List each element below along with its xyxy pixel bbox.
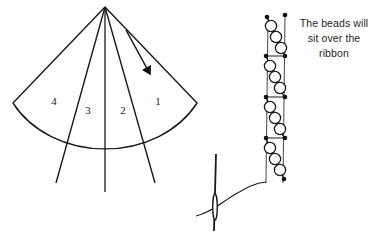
beaded-ribbon-group: [264, 13, 288, 183]
segment-label-3: 3: [85, 104, 91, 116]
bead: [270, 31, 281, 42]
cone-fan-group: 4 3 2 1: [13, 7, 197, 192]
knot-dot: [264, 95, 269, 100]
note-line-3: ribbon: [286, 46, 382, 61]
bead: [265, 20, 276, 31]
bead: [264, 142, 275, 153]
beads-over-ribbon-note: The beads will sit over the ribbon: [286, 16, 382, 61]
bead: [275, 42, 286, 53]
segment-label-2: 2: [120, 104, 126, 116]
bead: [264, 101, 275, 112]
bead: [269, 71, 280, 82]
bead: [274, 123, 285, 134]
bead: [269, 112, 280, 123]
knot-dot: [283, 95, 288, 100]
knot-dot: [265, 15, 270, 20]
knot-dot: [282, 177, 287, 182]
note-line-1: The beads will: [286, 16, 382, 31]
needle-thread: [196, 182, 266, 216]
segment-label-1: 1: [155, 95, 161, 107]
figure-canvas: 4 3 2 1: [0, 0, 383, 234]
bead: [269, 153, 280, 164]
note-line-2: sit over the: [286, 31, 382, 46]
knot-dot: [264, 136, 269, 141]
needle-eye: [213, 194, 218, 220]
direction-arrow: [126, 30, 150, 74]
knot-dot: [283, 136, 288, 141]
bead: [264, 60, 275, 71]
bead: [274, 164, 285, 175]
knot-dot: [264, 54, 269, 59]
segment-label-4: 4: [51, 95, 57, 107]
bead: [274, 82, 285, 93]
needle-group: [196, 154, 266, 231]
